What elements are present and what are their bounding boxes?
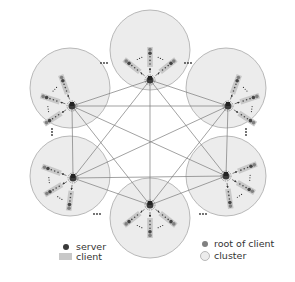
client-node	[45, 121, 49, 125]
ellipsis-dot	[139, 226, 140, 227]
client-dot	[242, 185, 244, 187]
client-dot	[228, 195, 230, 197]
between-cluster-ellipsis	[187, 62, 189, 64]
ellipsis-dot	[139, 58, 140, 59]
client-dot	[55, 187, 57, 189]
ellipsis-dot	[48, 108, 49, 109]
ellipsis-dot	[52, 90, 53, 91]
client-node	[127, 62, 131, 66]
client-dot	[233, 90, 235, 92]
ellipsis-dot	[251, 111, 252, 112]
ellipsis-dot	[252, 106, 253, 107]
client-dot	[242, 100, 244, 102]
ellipsis-dot	[246, 90, 247, 91]
client-dot	[63, 83, 65, 85]
legend-label-client: client	[76, 251, 102, 262]
client-dot	[54, 170, 56, 172]
client-dot	[165, 67, 167, 69]
client-node	[252, 96, 256, 100]
client-dot	[64, 87, 66, 89]
ellipsis-dot	[162, 59, 163, 60]
client-dot	[234, 87, 236, 89]
client-node	[169, 220, 173, 224]
ellipsis-dot	[241, 194, 242, 195]
client-node	[48, 190, 52, 194]
between-cluster-ellipsis	[190, 62, 192, 64]
legend-item-root-of-client: root of client	[202, 238, 275, 249]
client-node	[228, 201, 232, 205]
ellipsis-dot	[47, 106, 48, 107]
client-dot	[149, 56, 151, 58]
between-cluster-ellipsis	[100, 62, 102, 64]
ellipsis-dot	[48, 177, 49, 178]
client-dot	[239, 183, 241, 185]
ellipsis-dot	[54, 89, 55, 90]
client-dot	[52, 189, 54, 191]
client-dot	[137, 69, 139, 71]
client-dot	[131, 219, 133, 221]
ellipsis-dot	[61, 199, 62, 200]
client-dot	[149, 63, 151, 65]
between-cluster-ellipsis	[202, 213, 204, 215]
between-cluster-ellipsis	[96, 213, 98, 215]
between-cluster-ellipsis	[51, 128, 53, 130]
client-dot	[246, 99, 248, 101]
ellipsis-dot	[48, 111, 49, 112]
client-node	[169, 62, 173, 66]
client-node	[48, 119, 52, 123]
ellipsis-dot	[49, 182, 50, 183]
client-dot	[247, 118, 249, 120]
ellipsis-dot	[249, 177, 250, 178]
client-dot	[134, 216, 136, 218]
client-dot	[229, 198, 231, 200]
client-node	[148, 48, 152, 52]
client-dot	[243, 168, 245, 170]
ellipsis-dot	[57, 196, 58, 197]
client-node	[247, 188, 251, 192]
client-node	[45, 192, 49, 196]
between-cluster-ellipsis	[205, 213, 207, 215]
client-dot	[55, 116, 57, 118]
ellipsis-dot	[141, 57, 142, 58]
client-node	[46, 167, 50, 171]
client-node	[68, 203, 72, 207]
client-node	[67, 206, 71, 210]
client-dot	[70, 193, 72, 195]
client-node	[237, 76, 241, 80]
client-node	[61, 79, 65, 83]
cluster-network-diagram: server client root of client cluster	[0, 0, 295, 282]
between-cluster-ellipsis	[51, 131, 53, 133]
client-dot	[249, 98, 251, 100]
client-dot	[131, 65, 133, 67]
ellipsis-dot	[59, 197, 60, 198]
client-dot	[167, 219, 169, 221]
client-dot	[149, 227, 151, 229]
client-node	[249, 164, 253, 168]
ellipsis-dot	[245, 89, 246, 90]
client-dot	[66, 90, 68, 92]
ellipsis-dot	[243, 87, 244, 88]
cluster-upper-left	[30, 48, 110, 128]
cluster-icon	[201, 252, 210, 261]
client-dot	[228, 191, 230, 193]
client-node	[148, 230, 152, 234]
between-cluster-ellipsis	[245, 134, 247, 136]
client-node	[235, 79, 239, 83]
client-dot	[247, 167, 249, 169]
ellipsis-dot	[251, 108, 252, 109]
client-dot	[49, 98, 51, 100]
client-dot	[167, 65, 169, 67]
client-node	[127, 220, 131, 224]
between-cluster-ellipsis	[103, 62, 105, 64]
client-dot	[134, 67, 136, 69]
client-dot	[137, 214, 139, 216]
between-cluster-ellipsis	[106, 62, 108, 64]
client-dot	[149, 60, 151, 62]
between-cluster-ellipsis	[93, 213, 95, 215]
client-node	[124, 222, 128, 226]
client-dot	[149, 220, 151, 222]
ellipsis-dot	[237, 197, 238, 198]
client-node	[255, 95, 259, 99]
client-dot	[241, 114, 243, 116]
ellipsis-dot	[162, 225, 163, 226]
